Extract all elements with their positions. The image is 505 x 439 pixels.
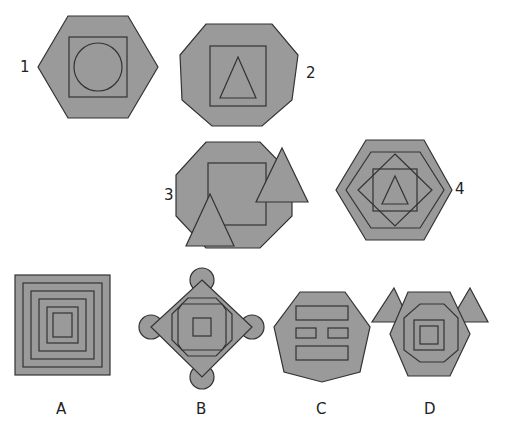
- option-b-label: B: [196, 402, 206, 417]
- figure-3-label: 3: [164, 188, 174, 203]
- figure-1-label: 1: [20, 60, 30, 75]
- figure-2-label: 2: [306, 66, 316, 81]
- figure-2: [180, 24, 298, 126]
- option-a-figure: [15, 275, 110, 375]
- option-d-figure: [372, 288, 488, 376]
- option-a-label: A: [56, 402, 66, 417]
- puzzle-diagram: [0, 0, 505, 439]
- figure-3: [176, 142, 308, 248]
- option-c-figure: [274, 292, 370, 382]
- option-d-label: D: [424, 402, 436, 417]
- figure-4: [336, 140, 452, 240]
- figure-1: [38, 16, 158, 118]
- option-c-label: C: [316, 402, 326, 417]
- figure-4-label: 4: [455, 182, 465, 197]
- option-b-figure: [139, 268, 264, 389]
